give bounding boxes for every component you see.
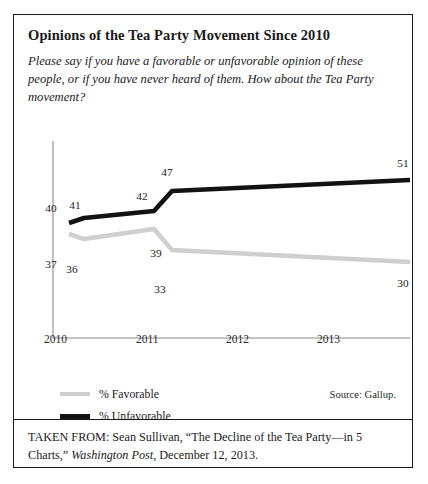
series-line-favorable <box>69 229 410 262</box>
x-tick-2011: 2011 <box>136 333 159 345</box>
data-label-unfavorable-1: 41 <box>69 199 80 211</box>
line-chart: 37 36 39 33 30 40 41 42 47 51 <box>14 119 412 339</box>
x-tick-2012: 2012 <box>226 333 249 345</box>
data-label-unfavorable-2: 42 <box>136 190 148 202</box>
footer-divider <box>14 419 412 420</box>
figure-container: Opinions of the Tea Party Movement Since… <box>13 14 413 468</box>
legend-swatch-favorable-icon <box>60 392 90 396</box>
citation-suffix: , December 12, 2013. <box>153 448 258 462</box>
legend-item-unfavorable: % Unfavorable <box>60 405 280 427</box>
data-label-favorable-3: 33 <box>154 283 166 295</box>
source-note: Source: Gallup. <box>330 389 397 400</box>
data-label-favorable-1: 36 <box>66 263 78 275</box>
legend-label-favorable: % Favorable <box>99 387 159 402</box>
series-line-unfavorable <box>69 180 410 223</box>
data-label-unfavorable-3: 47 <box>161 166 173 178</box>
citation-publication: Washington Post <box>71 448 153 462</box>
legend-swatch-unfavorable-icon <box>60 414 90 419</box>
data-label-favorable-4: 30 <box>397 277 409 289</box>
chart-svg: 37 36 39 33 30 40 41 42 47 51 <box>14 119 412 339</box>
page-title: Opinions of the Tea Party Movement Since… <box>28 27 400 44</box>
chart-legend: % Favorable % Unfavorable <box>60 383 280 427</box>
x-tick-2013: 2013 <box>317 333 340 345</box>
data-label-unfavorable-0: 40 <box>45 202 57 214</box>
x-axis-tick-labels: 2010 2011 2012 2013 <box>14 333 412 353</box>
x-tick-2010: 2010 <box>44 333 67 345</box>
figure-citation: TAKEN FROM: Sean Sullivan, “The Decline … <box>28 429 400 464</box>
data-label-favorable-0: 37 <box>45 258 57 270</box>
legend-item-favorable: % Favorable <box>60 383 280 405</box>
data-label-favorable-2: 39 <box>150 247 162 259</box>
legend-label-unfavorable: % Unfavorable <box>99 409 171 424</box>
data-label-unfavorable-4: 51 <box>397 157 408 169</box>
figure-subtitle: Please say if you have a favorable or un… <box>28 53 402 107</box>
